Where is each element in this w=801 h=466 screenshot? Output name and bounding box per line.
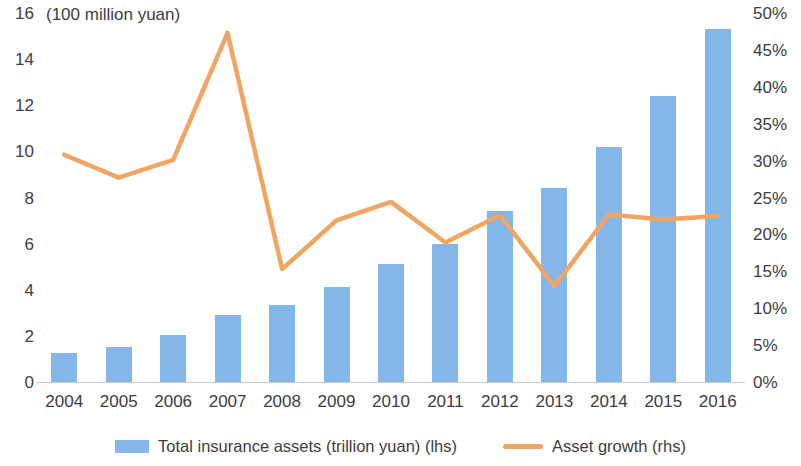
y-right-tick-20: 20% bbox=[753, 226, 801, 243]
bar-2009 bbox=[324, 287, 350, 382]
y-left-tick-6: 6 bbox=[0, 236, 34, 253]
bar-2004 bbox=[51, 353, 77, 382]
y-right-tick-45: 45% bbox=[753, 42, 801, 59]
y-right-tick-15: 15% bbox=[753, 263, 801, 280]
legend-item-line: Asset growth (rhs) bbox=[503, 437, 686, 456]
x-tick-2008: 2008 bbox=[255, 392, 309, 412]
y-right-tick-40: 40% bbox=[753, 79, 801, 96]
x-tick-2009: 2009 bbox=[309, 392, 363, 412]
legend-line-label: Asset growth (rhs) bbox=[552, 437, 686, 456]
bar-2013 bbox=[541, 188, 567, 382]
y-right-tick-5: 5% bbox=[753, 337, 801, 354]
x-tick-2013: 2013 bbox=[527, 392, 581, 412]
x-tick-2015: 2015 bbox=[636, 392, 690, 412]
x-tick-2006: 2006 bbox=[146, 392, 200, 412]
x-tick-2016: 2016 bbox=[691, 392, 745, 412]
x-tick-2014: 2014 bbox=[582, 392, 636, 412]
x-tick-2007: 2007 bbox=[200, 392, 254, 412]
bar-2016 bbox=[705, 29, 731, 382]
y-right-tick-30: 30% bbox=[753, 153, 801, 170]
x-tick-2012: 2012 bbox=[473, 392, 527, 412]
x-tick-2004: 2004 bbox=[37, 392, 91, 412]
x-tick-2011: 2011 bbox=[418, 392, 472, 412]
y-right-tick-10: 10% bbox=[753, 300, 801, 317]
y-left-tick-2: 2 bbox=[0, 328, 34, 345]
y-axis-left: 0246810121416 bbox=[0, 0, 34, 400]
y-left-tick-10: 10 bbox=[0, 143, 34, 160]
x-axis: 2004200520062007200820092010201120122013… bbox=[37, 392, 745, 418]
y-left-tick-4: 4 bbox=[0, 282, 34, 299]
x-tick-2005: 2005 bbox=[91, 392, 145, 412]
bar-2015 bbox=[650, 96, 676, 382]
bar-2008 bbox=[269, 305, 295, 382]
y-left-tick-14: 14 bbox=[0, 51, 34, 68]
y-right-tick-35: 35% bbox=[753, 116, 801, 133]
bar-2006 bbox=[160, 335, 186, 382]
y-right-tick-0: 0% bbox=[753, 374, 801, 391]
bar-2010 bbox=[378, 264, 404, 382]
bar-2012 bbox=[487, 211, 513, 382]
plot-area bbox=[37, 8, 745, 383]
legend-item-bar: Total insurance assets (trillion yuan) (… bbox=[115, 437, 457, 456]
bar-2005 bbox=[106, 347, 132, 382]
legend-bar-swatch-icon bbox=[115, 440, 149, 453]
y-right-tick-50: 50% bbox=[753, 5, 801, 22]
legend-line-swatch-icon bbox=[503, 444, 543, 449]
y-left-tick-16: 16 bbox=[0, 5, 34, 22]
y-left-tick-0: 0 bbox=[0, 374, 34, 391]
x-tick-2010: 2010 bbox=[364, 392, 418, 412]
insurance-assets-chart: (100 million yuan) 0246810121416 0%5%10%… bbox=[0, 0, 801, 466]
y-left-tick-8: 8 bbox=[0, 190, 34, 207]
y-left-tick-12: 12 bbox=[0, 97, 34, 114]
bar-2007 bbox=[215, 315, 241, 382]
legend-bar-label: Total insurance assets (trillion yuan) (… bbox=[158, 437, 457, 456]
y-axis-right: 0%5%10%15%20%25%30%35%40%45%50% bbox=[753, 0, 801, 400]
axis-baseline bbox=[37, 382, 745, 383]
bar-2011 bbox=[432, 244, 458, 382]
y-right-tick-25: 25% bbox=[753, 190, 801, 207]
bar-2014 bbox=[596, 147, 622, 382]
chart-legend: Total insurance assets (trillion yuan) (… bbox=[0, 437, 801, 456]
